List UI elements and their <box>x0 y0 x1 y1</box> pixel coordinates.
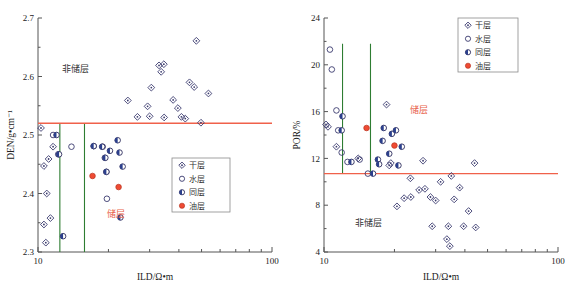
data-point-dry-dot <box>449 245 451 247</box>
data-point-dry-dot <box>181 164 183 166</box>
x-tick-label: 10 <box>320 256 330 266</box>
y-axis-title: POR/% <box>292 120 302 149</box>
data-point-dry-dot <box>189 81 191 83</box>
data-point-water <box>69 144 75 150</box>
data-point-dry-dot <box>388 165 390 167</box>
legend: 干层水层同层油层 <box>172 158 230 212</box>
data-point-dry-dot <box>422 160 424 162</box>
data-point-dry-dot <box>180 116 182 118</box>
data-point-dry-dot <box>386 104 388 106</box>
chart-panel-den-vs-ild: 2.32.42.52.62.710100非储层储层ILD/Ω•mDEN/g•cm… <box>0 0 286 294</box>
y-tick-label: 2.7 <box>23 13 35 23</box>
data-point-dry-dot <box>46 193 48 195</box>
data-point-dry-dot <box>45 242 47 244</box>
data-point-water <box>357 157 363 163</box>
data-point-water <box>334 108 340 114</box>
data-point-dry-dot <box>468 210 470 212</box>
data-point-dry-dot <box>447 225 449 227</box>
data-point-dry-dot <box>431 225 433 227</box>
legend: 干层水层同层油层 <box>458 18 518 72</box>
x-tick-label: 100 <box>265 256 279 266</box>
data-point-dry-dot <box>208 93 210 95</box>
y-tick-label: 2.4 <box>23 189 35 199</box>
y-tick-label: 2.5 <box>23 130 35 140</box>
data-point-water <box>327 47 333 53</box>
data-point-dry-dot <box>467 24 469 26</box>
series-dry <box>323 101 480 249</box>
axes-lines <box>38 18 272 252</box>
figure-root: 2.32.42.52.62.710100非储层储层ILD/Ω•mDEN/g•cm… <box>0 0 572 294</box>
data-point-dry-dot <box>450 175 452 177</box>
annotation-label: 储层 <box>410 104 428 115</box>
series-oil <box>90 173 122 190</box>
data-point-dry-dot <box>137 116 139 118</box>
data-point-dry-dot <box>474 162 476 164</box>
data-point-dry-dot <box>127 100 129 102</box>
data-point-dry-dot <box>149 115 151 117</box>
data-point-dry-dot <box>43 165 45 167</box>
legend-label-dry: 干层 <box>189 161 205 170</box>
data-point-oil <box>116 184 122 190</box>
data-point-dry-dot <box>446 238 448 240</box>
annotation-label: 储层 <box>107 208 125 219</box>
data-point-dry-dot <box>453 198 455 200</box>
data-point-oil <box>364 125 370 131</box>
data-point-dry-dot <box>435 200 437 202</box>
data-point-oil <box>465 63 470 68</box>
data-point-dry-dot <box>52 146 54 148</box>
legend-label-dry: 干层 <box>475 21 491 30</box>
legend-label-mix: 同层 <box>475 48 491 57</box>
series-water <box>50 132 109 201</box>
data-point-dry-dot <box>463 225 465 227</box>
y-tick-label: 12 <box>311 154 320 164</box>
x-axis-title: ILD/Ω•m <box>423 272 460 282</box>
data-point-water <box>339 150 345 156</box>
data-point-dry-dot <box>184 118 186 120</box>
legend-label-water: 水层 <box>189 174 205 184</box>
data-point-water <box>329 67 335 73</box>
data-point-dry-dot <box>158 64 160 66</box>
data-point-dry-dot <box>396 205 398 207</box>
y-tick-label: 24 <box>311 13 321 23</box>
data-point-dry-dot <box>403 197 405 199</box>
data-point-dry-dot <box>43 224 45 226</box>
data-point-dry-dot <box>195 40 197 42</box>
data-point-dry-dot <box>50 217 52 219</box>
data-point-dry-dot <box>160 71 162 73</box>
data-point-oil <box>179 203 184 208</box>
data-point-dry-dot <box>475 227 477 229</box>
data-point-oil <box>392 143 398 149</box>
axes-lines <box>324 18 558 252</box>
data-point-dry-dot <box>48 158 50 160</box>
y-tick-label: 8 <box>316 200 321 210</box>
data-point-dry-dot <box>440 181 442 183</box>
data-point-dry-dot <box>409 177 411 179</box>
data-point-dry-dot <box>177 107 179 109</box>
series-mix <box>54 132 126 239</box>
data-point-dry-dot <box>172 99 174 101</box>
legend-label-oil: 油层 <box>475 61 491 71</box>
series-water <box>327 47 371 177</box>
legend-label-oil: 油层 <box>189 201 205 211</box>
y-axis-title: DEN/g•cm⁻¹ <box>6 110 16 160</box>
data-point-dry-dot <box>424 188 426 190</box>
data-point-dry-dot <box>147 105 149 107</box>
data-point-dry-dot <box>193 86 195 88</box>
x-axis-title: ILD/Ω•m <box>137 272 174 282</box>
data-point-dry-dot <box>418 189 420 191</box>
data-point-dry-dot <box>410 196 412 198</box>
legend-label-water: 水层 <box>475 34 491 44</box>
y-tick-label: 16 <box>311 107 321 117</box>
y-tick-label: 2.6 <box>23 72 35 82</box>
legend-label-mix: 同层 <box>189 188 205 197</box>
data-point-dry-dot <box>163 63 165 65</box>
annotation-label: 非储层 <box>62 63 89 74</box>
annotation-label: 非储层 <box>355 217 382 228</box>
data-point-dry-dot <box>200 122 202 124</box>
chart-panel-por-vs-ild: 481216202410100储层非储层ILD/Ω•mPOR/%干层水层同层油层 <box>286 0 572 294</box>
x-tick-label: 10 <box>34 256 44 266</box>
data-point-oil <box>90 173 96 179</box>
x-tick-label: 100 <box>551 256 565 266</box>
y-tick-label: 20 <box>311 60 321 70</box>
data-point-dry-dot <box>459 187 461 189</box>
